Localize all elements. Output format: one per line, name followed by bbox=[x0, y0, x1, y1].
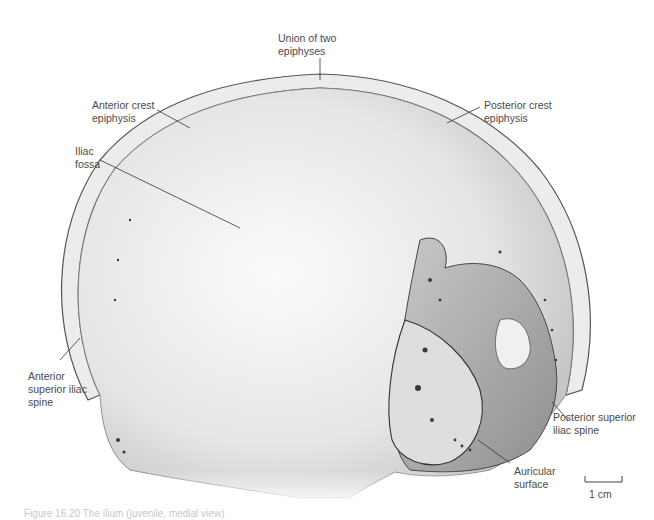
label-iliac-fossa: Iliac fossa bbox=[75, 145, 100, 171]
scale-bar bbox=[585, 476, 622, 482]
label-auricular-surface: Auricular surface bbox=[514, 465, 555, 491]
ilium-illustration bbox=[0, 0, 654, 520]
label-union-of-epiphyses: Union of two epiphyses bbox=[278, 32, 336, 58]
scale-bar-label: 1 cm bbox=[589, 488, 612, 500]
label-anterior-superior-iliac-spine: Anterior superior iliac spine bbox=[28, 370, 87, 409]
label-posterior-crest-epiphysis: Posterior crest epiphysis bbox=[484, 99, 552, 125]
figure-caption: Figure 16.20 The ilium (juvenile, medial… bbox=[24, 508, 224, 519]
label-anterior-crest-epiphysis: Anterior crest epiphysis bbox=[92, 99, 154, 125]
label-posterior-superior-iliac-spine: Posterior superior iliac spine bbox=[553, 411, 636, 437]
